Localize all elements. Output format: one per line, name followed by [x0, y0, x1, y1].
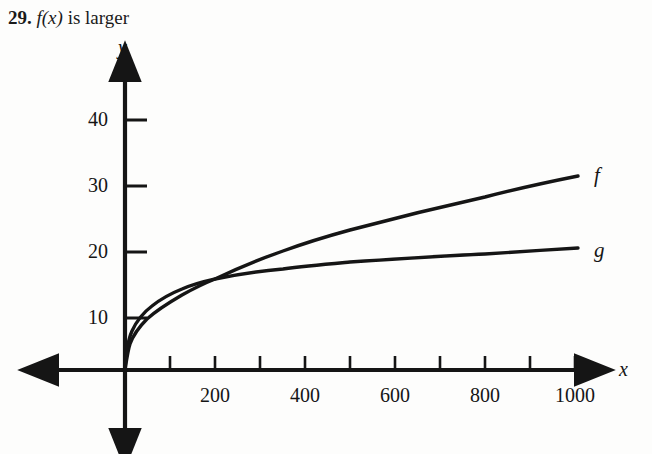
curve-f: [125, 176, 578, 370]
x-tick-label-800: 800: [450, 384, 520, 407]
x-axis-label: x: [619, 358, 628, 381]
y-axis-label: y: [118, 36, 127, 59]
figure-page: 29. f(x) is larger: [0, 0, 652, 454]
x-tick-label-200: 200: [180, 384, 250, 407]
curve-label-g: g: [594, 238, 605, 263]
curve-label-f: f: [594, 163, 600, 188]
y-tick-label-30: 30: [62, 174, 108, 197]
curve-g: [125, 248, 578, 370]
y-tick-label-20: 20: [62, 240, 108, 263]
x-tick-label-600: 600: [360, 384, 430, 407]
x-tick-label-1000: 1000: [538, 384, 612, 407]
x-tick-label-400: 400: [270, 384, 340, 407]
y-tick-label-10: 10: [62, 306, 108, 329]
y-axis-ticks: [125, 120, 147, 318]
y-tick-label-40: 40: [62, 108, 108, 131]
